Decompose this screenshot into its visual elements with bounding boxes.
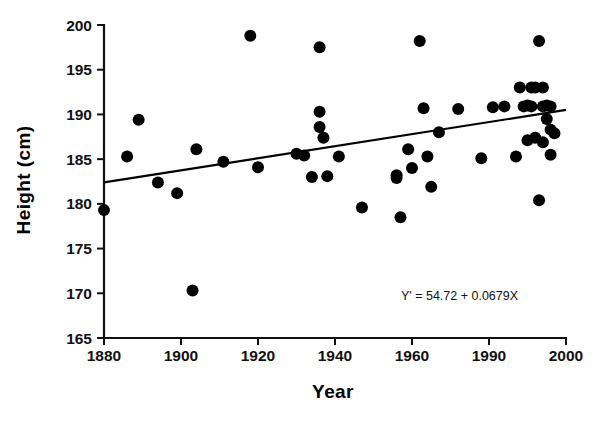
x-axis-tick-label: 2000 [549,347,583,364]
data-point [514,82,526,94]
y-axis-tick-label: 165 [66,330,92,347]
regression-trend-line [104,110,566,182]
data-point [244,30,256,42]
data-point [314,121,326,133]
data-points-group [98,30,560,297]
x-axis-tick-labels: 1880190019201940196019902000 [87,347,583,364]
data-point [452,103,464,115]
y-axis-tick-label: 180 [66,195,92,212]
data-point [306,171,318,183]
data-point [171,187,183,199]
data-point [498,100,510,112]
y-axis-tick-label: 195 [66,61,92,78]
regression-equation-annotation: Y' = 54.72 + 0.0679X [401,289,519,303]
data-point [152,176,164,188]
data-point [548,127,560,139]
data-point [510,150,522,162]
y-axis-tick-label: 175 [66,240,92,257]
x-axis-tick-label: 1920 [241,347,275,364]
data-point [421,150,433,162]
data-point [321,170,333,182]
data-point [317,132,329,144]
data-point [525,100,537,112]
data-point [252,161,264,173]
data-point [391,172,403,184]
data-point [190,143,202,155]
data-point [545,149,557,161]
data-point [314,106,326,118]
chart-canvas: 165170175180185190195200 188019001920194… [0,0,607,424]
data-point [402,143,414,155]
data-point [487,101,499,113]
data-point [418,102,430,114]
data-point [533,35,545,47]
scatter-plot-figure: 165170175180185190195200 188019001920194… [0,0,607,424]
data-point [537,82,549,94]
x-axis-tick-label: 1880 [87,347,121,364]
data-point [475,152,487,164]
y-axis-tick-label: 200 [66,17,92,34]
x-axis-title: Year [312,381,354,402]
data-point [533,194,545,206]
x-axis-tick-label: 1940 [318,347,352,364]
x-axis-tick-label: 1900 [164,347,198,364]
data-point [537,136,549,148]
data-point [425,181,437,193]
y-axis-tick-label: 170 [66,285,92,302]
x-axis-tick-label: 1960 [395,347,429,364]
y-axis-title: Height (cm) [13,126,34,235]
y-axis-tick-labels: 165170175180185190195200 [66,17,92,347]
data-point [545,100,557,112]
data-point [414,35,426,47]
data-point [333,150,345,162]
data-point [314,41,326,53]
x-axis-tick-label: 1990 [472,347,506,364]
data-point [406,162,418,174]
data-point [133,114,145,126]
data-point [187,285,199,297]
data-point [217,156,229,168]
data-point [121,150,133,162]
data-point [394,211,406,223]
data-point [98,204,110,216]
data-point [356,201,368,213]
y-axis-tick-label: 190 [66,106,92,123]
y-axis-tick-label: 185 [66,151,92,168]
